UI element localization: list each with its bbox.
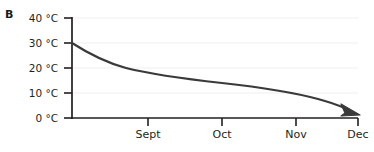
x-tick-label-oct: Oct xyxy=(212,128,231,141)
x-axis-ticks xyxy=(148,118,358,126)
y-tick-label-0: 0 °C xyxy=(35,112,58,124)
y-tick-label-40: 40 °C xyxy=(29,12,58,24)
y-tick-label-20: 20 °C xyxy=(29,62,58,74)
x-tick-label-dec: Dec xyxy=(347,128,368,141)
y-tick-label-10: 10 °C xyxy=(29,87,58,99)
y-tick-label-30: 30 °C xyxy=(29,37,58,49)
chart-figure: B xyxy=(0,0,374,152)
x-tick-label-sept: Sept xyxy=(135,128,160,141)
temperature-curve xyxy=(72,43,347,109)
curve-arrowhead-icon xyxy=(341,104,360,116)
y-axis-ticks xyxy=(64,18,72,118)
x-tick-label-nov: Nov xyxy=(285,128,306,141)
